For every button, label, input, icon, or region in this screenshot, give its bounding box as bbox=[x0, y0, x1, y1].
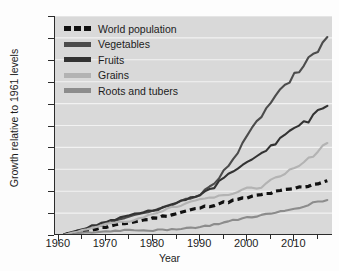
x-axis-tick-label: 1980 bbox=[140, 237, 164, 249]
legend-item-label: Vegetables bbox=[98, 39, 150, 50]
legend-item-label: World population bbox=[98, 24, 177, 35]
legend-item-label: Fruits bbox=[98, 55, 124, 66]
x-axis-minor-tick-mark bbox=[317, 235, 318, 239]
legend-item-grains[interactable]: Grains bbox=[64, 68, 178, 84]
legend-swatch-icon bbox=[64, 73, 91, 78]
x-axis-minor-tick-mark bbox=[128, 235, 129, 239]
x-axis-title: Year bbox=[0, 252, 339, 264]
x-axis-tick-label: 1990 bbox=[187, 237, 211, 249]
series-world-population bbox=[63, 181, 327, 235]
legend-item-label: Grains bbox=[98, 70, 129, 81]
x-axis-minor-tick-mark bbox=[81, 235, 82, 239]
legend-swatch-icon bbox=[64, 42, 91, 47]
series-roots-and-tubers bbox=[63, 200, 327, 235]
legend-swatch-icon bbox=[64, 57, 91, 62]
legend-swatch-icon bbox=[64, 26, 91, 31]
legend-swatch-icon bbox=[64, 88, 91, 93]
legend-item-label: Roots and tubers bbox=[98, 86, 178, 97]
x-axis-minor-tick-mark bbox=[223, 235, 224, 239]
legend-item-vegetables[interactable]: Vegetables bbox=[64, 37, 178, 53]
legend-item-roots-and-tubers[interactable]: Roots and tubers bbox=[64, 83, 178, 99]
x-axis-minor-tick-mark bbox=[176, 235, 177, 239]
x-axis-tick-label: 2000 bbox=[234, 237, 258, 249]
x-axis-minor-tick-mark bbox=[270, 235, 271, 239]
legend-item-fruits[interactable]: Fruits bbox=[64, 52, 178, 68]
y-axis-title: Growth relative to 1961 levels bbox=[8, 8, 20, 228]
y-axis-tick-mark bbox=[48, 235, 54, 236]
legend-item-world-population[interactable]: World population bbox=[64, 21, 178, 37]
chart-figure: Growth relative to 1961 levels 6.05.54.5… bbox=[0, 0, 339, 271]
x-axis-tick-label: 1970 bbox=[93, 237, 117, 249]
chart-legend: World populationVegetablesFruitsGrainsRo… bbox=[64, 21, 178, 99]
x-axis-tick-label: 2010 bbox=[281, 237, 305, 249]
x-axis-tick-label: 1960 bbox=[46, 237, 70, 249]
